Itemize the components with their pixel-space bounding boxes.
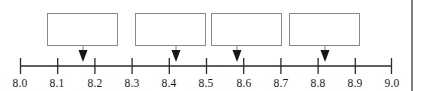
tick-label-8-0: 8.0 [13,77,28,89]
answer-box-2[interactable] [136,14,206,46]
tick-label-group: 8.0 8.1 8.2 8.3 8.4 8.5 8.6 8.7 8.8 8.9 … [13,77,400,89]
tick-label-8-4: 8.4 [162,77,177,89]
tick-label-9-0: 9.0 [385,77,400,89]
arrow-group [79,46,330,63]
answer-box-group [48,14,360,46]
marker-2-arrow-icon [172,50,181,62]
marker-4-arrow-icon [321,50,330,62]
number-line-figure: 8.0 8.1 8.2 8.3 8.4 8.5 8.6 8.7 8.8 8.9 … [0,0,424,91]
answer-box-3[interactable] [212,14,282,46]
tick-label-8-9: 8.9 [348,77,363,89]
marker-1-arrow-icon [79,50,88,62]
marker-3-arrow-icon [233,50,242,62]
tick-label-8-1: 8.1 [50,77,65,89]
answer-box-1[interactable] [48,14,118,46]
tick-label-8-2: 8.2 [88,77,103,89]
tick-label-8-6: 8.6 [237,77,252,89]
tick-label-8-5: 8.5 [199,77,214,89]
tick-label-8-8: 8.8 [311,77,326,89]
answer-box-4[interactable] [290,14,360,46]
tick-label-8-3: 8.3 [125,77,140,89]
tick-label-8-7: 8.7 [274,77,289,89]
